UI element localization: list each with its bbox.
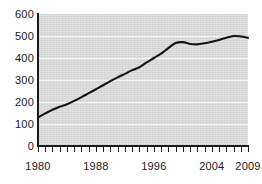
chart-figure: 0100200300400500600 19801988199620042009	[0, 0, 262, 184]
x-tick	[118, 147, 119, 152]
x-tick	[168, 147, 169, 152]
x-tick	[60, 147, 61, 152]
x-tick	[212, 147, 213, 152]
gridline	[38, 124, 248, 125]
x-tick	[38, 147, 39, 152]
x-tick	[132, 147, 133, 152]
y-tick-label: 0	[2, 141, 34, 152]
x-tick	[103, 147, 104, 152]
x-tick	[74, 147, 75, 152]
gridline	[38, 80, 248, 81]
x-tick-label: 2009	[228, 161, 262, 172]
x-tick	[226, 147, 227, 152]
x-tick	[219, 147, 220, 152]
x-tick	[81, 147, 82, 152]
y-axis-tick-labels: 0100200300400500600	[0, 0, 34, 184]
x-tick	[110, 147, 111, 152]
gridline	[38, 102, 248, 103]
x-tick	[139, 147, 140, 152]
x-tick	[241, 147, 242, 152]
y-axis-line	[37, 13, 39, 147]
x-tick	[190, 147, 191, 152]
gridline	[38, 36, 248, 37]
x-tick	[248, 147, 249, 152]
y-tick-label: 400	[2, 53, 34, 64]
x-tick	[45, 147, 46, 152]
x-tick	[234, 147, 235, 152]
y-tick-label: 600	[2, 9, 34, 20]
x-tick	[154, 147, 155, 152]
x-tick	[183, 147, 184, 152]
x-tick	[67, 147, 68, 152]
x-tick-label: 1996	[134, 161, 174, 172]
x-tick	[205, 147, 206, 152]
x-tick	[197, 147, 198, 152]
x-tick	[176, 147, 177, 152]
x-tick-label: 1980	[18, 161, 58, 172]
x-tick-label: 2004	[192, 161, 232, 172]
y-tick-label: 300	[2, 75, 34, 86]
y-tick-label: 200	[2, 97, 34, 108]
x-tick-label: 1988	[76, 161, 116, 172]
x-tick	[52, 147, 53, 152]
y-tick-label: 500	[2, 31, 34, 42]
y-tick-label: 100	[2, 119, 34, 130]
x-tick	[125, 147, 126, 152]
x-axis-line	[37, 145, 249, 147]
plot-area	[38, 14, 248, 146]
x-tick	[147, 147, 148, 152]
x-tick	[96, 147, 97, 152]
gridline	[38, 58, 248, 59]
x-tick	[89, 147, 90, 152]
x-tick	[161, 147, 162, 152]
